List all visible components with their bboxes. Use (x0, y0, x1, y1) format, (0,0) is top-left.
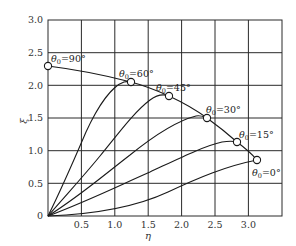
marker-theta-30 (203, 114, 210, 121)
y-tick: 1.0 (28, 145, 43, 156)
x-axis-label: η (145, 230, 151, 241)
curve-theta-15 (48, 141, 237, 216)
marker-theta-0 (253, 156, 260, 163)
annotation-theta-30: θ0=30° (206, 104, 241, 117)
annotation-theta-0: θ0=0° (252, 167, 281, 180)
x-tick: 1.0 (107, 219, 122, 230)
y-tick: 0 (37, 210, 43, 221)
curves (48, 66, 257, 216)
y-tick: 3.0 (28, 14, 43, 25)
y-tick: 0.5 (28, 178, 43, 189)
x-tick: 0.5 (74, 219, 89, 230)
x-tick: 2.0 (174, 219, 189, 230)
y-axis-ticks: 3.0 2.5 2.0 1.5 1.0 0.5 0 (28, 14, 43, 221)
annotation-theta-90: θ0=90° (51, 53, 86, 66)
y-axis-label: ξ (18, 118, 29, 124)
curve-theta-60 (48, 82, 131, 216)
annotation-theta-45: θ0=45° (156, 82, 191, 95)
x-tick: 3.0 (241, 219, 256, 230)
y-tick: 2.0 (28, 80, 43, 91)
x-tick: 2.5 (207, 219, 222, 230)
marker-theta-45 (165, 92, 172, 99)
x-tick: 1.5 (141, 219, 156, 230)
y-tick: 2.5 (28, 47, 43, 58)
curve-theta-0 (48, 160, 257, 216)
annotation-theta-15: θ0=15° (239, 129, 274, 142)
curve-theta-45 (48, 95, 169, 216)
grid (48, 20, 282, 216)
x-axis-ticks: 0.5 1.0 1.5 2.0 2.5 3.0 (74, 219, 256, 230)
trajectory-chart: 3.0 2.5 2.0 1.5 1.0 0.5 0 0.5 1.0 1.5 2.… (0, 0, 296, 246)
y-tick: 1.5 (28, 112, 43, 123)
